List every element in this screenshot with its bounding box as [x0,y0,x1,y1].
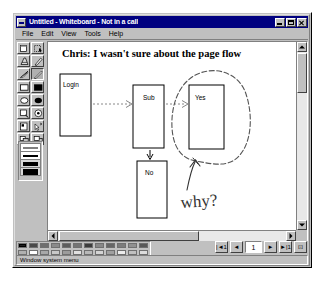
maximize-button[interactable] [286,18,296,27]
tool-palette [16,41,46,242]
vertical-scroll-thumb[interactable] [297,53,307,93]
scroll-down-button[interactable] [297,220,307,230]
color-swatch[interactable] [73,243,82,248]
line-tool[interactable] [17,68,30,80]
arrow-sub-to-yes [166,101,188,108]
select-window-tool[interactable] [17,42,30,54]
last-page-button[interactable]: ►|1 [279,241,292,253]
scroll-up-button[interactable] [297,42,307,52]
color-swatch[interactable] [139,243,148,248]
rectangle-outline-icon[interactable] [17,81,30,93]
status-bar: Window system menu [16,255,308,265]
bottom-bar: |◄1 ◄ 1 ► ►|1 ⊡ [16,241,308,255]
eraser-tool[interactable] [17,55,30,67]
vertical-scrollbar[interactable] [296,42,307,230]
color-swatch[interactable] [51,243,60,248]
next-page-button[interactable]: ► [264,241,277,253]
color-swatch[interactable] [18,243,27,248]
horizontal-scrollbar[interactable] [48,230,296,241]
whiteboard-window: Untitled - Whiteboard - Not in a call Fi… [12,12,312,268]
color-swatch[interactable] [128,243,137,248]
status-bar-text: Window system menu [20,256,79,265]
color-swatch[interactable] [106,243,115,248]
remote-pointer-icon[interactable] [31,107,44,119]
menu-item-help[interactable]: Help [105,29,127,39]
rectangle-filled-icon[interactable] [31,81,44,93]
page-navigation: |◄1 ◄ 1 ► ►|1 ⊡ [215,241,307,253]
lock-icon[interactable] [17,120,30,132]
arrow-login-to-sub [93,101,132,108]
arrow-sub-to-no [147,150,153,160]
canvas-annotation-text: Chris: I wasn't sure about the page flow [62,48,242,59]
color-swatch[interactable] [40,243,49,248]
ellipse-filled-icon[interactable] [31,94,44,106]
node-yes-label: Yes [195,94,206,101]
menu-item-edit[interactable]: Edit [37,29,57,39]
horizontal-scroll-thumb[interactable] [59,231,199,241]
node-sub-label: Sub [143,94,155,101]
title-bar[interactable]: Untitled - Whiteboard - Not in a call [16,16,308,28]
color-swatch[interactable] [29,243,38,248]
canvas-drawing: Chris: I wasn't sure about the page flow… [48,42,296,230]
minimize-button[interactable] [275,18,285,27]
color-swatch[interactable] [62,243,71,248]
whiteboard-canvas[interactable]: Chris: I wasn't sure about the page flow… [48,42,296,230]
select-area-tool[interactable] [31,42,44,54]
first-page-button[interactable]: |◄1 [215,241,228,253]
menu-bar: File Edit View Tools Help [16,29,308,40]
color-swatch[interactable] [84,243,93,248]
color-swatch[interactable] [117,243,126,248]
client-area: Chris: I wasn't sure about the page flow… [16,41,308,242]
menu-item-file[interactable]: File [18,29,37,39]
color-swatch[interactable] [95,243,104,248]
highlighter-icon[interactable] [31,55,44,67]
app-root: Untitled - Whiteboard - Not in a call Fi… [0,0,322,281]
tools-grid [17,42,45,146]
menu-item-view[interactable]: View [57,29,80,39]
new-page-button[interactable]: ⊡ [294,241,307,253]
page-number-field[interactable]: 1 [245,241,262,253]
scroll-right-button[interactable] [286,231,296,241]
window-buttons [275,18,307,27]
menu-item-tools[interactable]: Tools [80,29,104,39]
close-button[interactable] [297,18,307,27]
scrollbar-corner [296,230,307,241]
node-no-label: No [145,169,154,176]
line-width-selector [18,141,43,181]
window-title: Untitled - Whiteboard - Not in a call [29,17,138,27]
canvas-frame: Chris: I wasn't sure about the page flow… [47,41,308,242]
magnifier-icon[interactable] [17,107,30,119]
line-width-4[interactable] [20,167,41,176]
system-menu-icon[interactable] [17,18,26,27]
previous-page-button[interactable]: ◄ [230,241,243,253]
sync-pointer-icon[interactable] [31,120,44,132]
node-login-label: Login [63,81,79,89]
ellipse-outline-icon[interactable] [17,94,30,106]
scroll-left-button[interactable] [48,231,58,241]
pen-tool[interactable] [31,68,44,80]
hand-drawn-arrow-to-circle [187,158,200,190]
handwriting-why: why? [180,190,218,212]
